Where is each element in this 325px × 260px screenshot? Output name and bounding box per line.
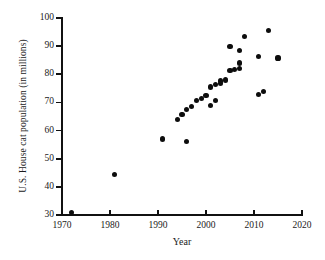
y-axis-tick-label-text: 50 (26, 154, 54, 164)
data-point (242, 34, 247, 39)
y-axis-tick-label: 50 (22, 154, 54, 164)
x-axis-title: Year (62, 236, 302, 247)
scatter-chart-figure: U.S. House cat population (in millions) … (0, 0, 325, 260)
data-point (112, 172, 117, 177)
y-axis-tick-label-text: 70 (26, 97, 54, 107)
x-axis-tick-label: 1970 (40, 219, 84, 231)
y-axis-tick-label: 70 (22, 97, 54, 107)
data-point (237, 66, 242, 71)
data-point (237, 60, 242, 65)
data-point (160, 136, 165, 141)
y-axis-tick-label: 100 (22, 13, 54, 23)
y-axis-tick-label-text: 100 (26, 13, 54, 23)
data-point (179, 112, 184, 117)
data-point (227, 44, 232, 49)
y-axis-tick-label: 80 (22, 69, 54, 79)
data-point (261, 89, 266, 94)
x-axis-tick-label-text: 1970 (40, 219, 84, 231)
data-point (175, 117, 180, 122)
data-point (203, 93, 208, 98)
data-point (184, 139, 189, 144)
x-axis-tick-label: 2010 (232, 219, 276, 231)
x-axis-tick-label: 1990 (136, 219, 180, 231)
x-axis-tick-label: 2020 (280, 219, 324, 231)
data-point (208, 103, 213, 108)
plot-area (62, 18, 302, 215)
x-axis-tick-label-text: 2010 (232, 219, 276, 231)
x-axis-tick-label-text: 2020 (280, 219, 324, 231)
x-axis-tick-label-text: 1980 (88, 219, 132, 231)
y-axis-tick-label-text: 40 (26, 182, 54, 192)
data-point (213, 98, 218, 103)
y-axis-tick-label: 60 (22, 126, 54, 136)
data-point (69, 210, 74, 215)
y-axis-tick-label: 40 (22, 182, 54, 192)
data-point (275, 55, 280, 60)
data-point (266, 28, 271, 33)
y-axis-tick-label-text: 80 (26, 69, 54, 79)
y-axis-tick-label-text: 90 (26, 41, 54, 51)
data-point (189, 104, 194, 109)
x-axis-tick-label-text: 1990 (136, 219, 180, 231)
x-axis-tick-label-text: 2000 (184, 219, 228, 231)
data-point (256, 54, 261, 59)
x-axis-tick-label: 2000 (184, 219, 228, 231)
y-axis-tick-label: 90 (22, 41, 54, 51)
y-axis-tick-label-text: 60 (26, 126, 54, 136)
data-point (237, 48, 242, 53)
data-point (223, 77, 228, 82)
x-axis-tick-label: 1980 (88, 219, 132, 231)
